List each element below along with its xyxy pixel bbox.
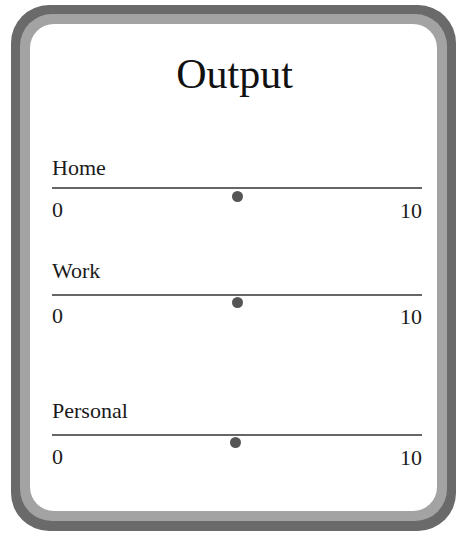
slider-min-label: 0 <box>52 198 63 222</box>
slider-min-label: 0 <box>52 304 63 328</box>
slider-label: Home <box>52 156 106 180</box>
slider-knob[interactable] <box>230 437 241 448</box>
slider-track[interactable] <box>52 187 422 189</box>
slider-label: Work <box>52 259 100 283</box>
slider-track[interactable] <box>52 294 422 296</box>
slider-label: Personal <box>52 399 128 423</box>
slider-max-label: 10 <box>400 446 422 470</box>
slider-home: Home 0 10 <box>52 160 422 222</box>
panel-title: Output <box>0 50 469 98</box>
slider-track[interactable] <box>52 434 422 436</box>
slider-max-label: 10 <box>400 199 422 223</box>
slider-min-label: 0 <box>52 445 63 469</box>
slider-work: Work 0 10 <box>52 262 422 326</box>
slider-knob[interactable] <box>232 297 243 308</box>
slider-personal: Personal 0 10 <box>52 402 422 466</box>
slider-knob[interactable] <box>232 191 243 202</box>
slider-max-label: 10 <box>400 305 422 329</box>
